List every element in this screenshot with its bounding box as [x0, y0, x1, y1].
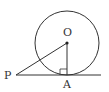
label-o: O	[63, 26, 72, 39]
label-p: P	[4, 69, 12, 82]
center-point-o	[65, 41, 68, 44]
label-a: A	[62, 78, 72, 91]
segment-po	[16, 43, 67, 75]
tangent-circle-diagram: O P A	[0, 0, 109, 92]
